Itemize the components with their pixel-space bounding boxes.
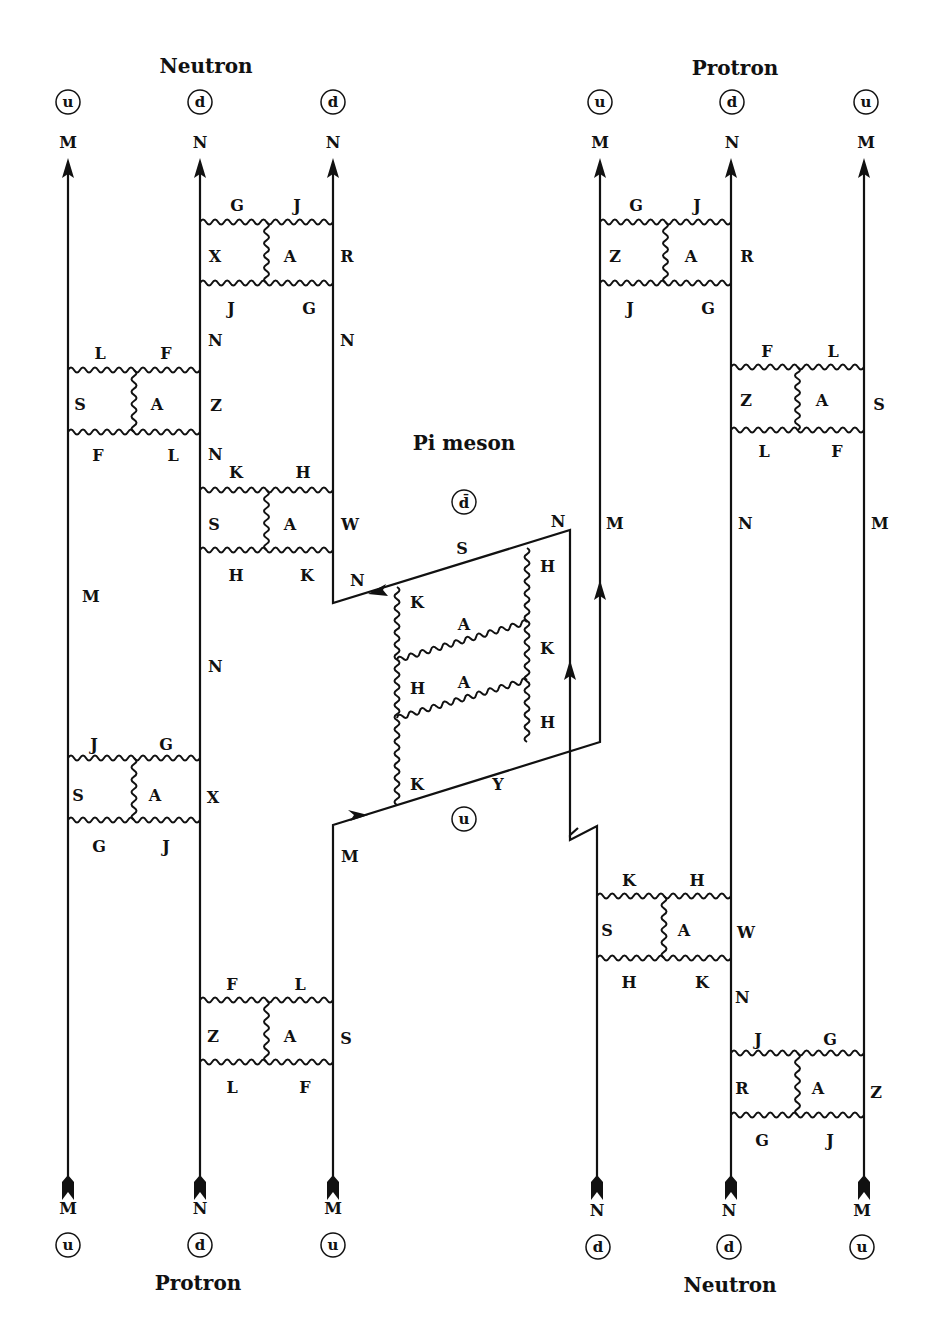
box-label: A <box>150 395 164 414</box>
end-label: N <box>722 1201 737 1220</box>
box-label: F <box>226 975 238 994</box>
line-label: N <box>208 445 223 464</box>
quark-u: u <box>459 810 470 828</box>
box-label: G <box>823 1030 837 1049</box>
box-label: L <box>167 446 178 465</box>
meson-corner-label: N <box>551 512 566 531</box>
bottom-right-quarks: d d u <box>586 1235 874 1259</box>
box-label: J <box>752 1030 762 1049</box>
box-label: A <box>815 391 829 410</box>
glue-label: K <box>410 775 425 794</box>
box-label: J <box>824 1131 834 1150</box>
box-label: L <box>294 975 305 994</box>
box-label: Z <box>870 1083 882 1102</box>
box-label: A <box>684 247 698 266</box>
box-label: L <box>827 342 838 361</box>
box-label: L <box>226 1078 237 1097</box>
quark-d: d <box>724 1238 735 1256</box>
box-right-mid: K H S A W H K <box>601 871 756 992</box>
gluon-lines <box>68 220 864 1118</box>
box-label: X <box>209 247 222 266</box>
box-label: S <box>873 395 885 414</box>
title-proton-top: Protron <box>692 56 779 80</box>
box-label: G <box>701 299 715 318</box>
quark-u: u <box>861 93 872 111</box>
quark-d: d <box>195 1236 206 1254</box>
title-pi-meson: Pi meson <box>413 431 516 455</box>
box-label: G <box>755 1131 769 1150</box>
box-label: H <box>689 871 704 890</box>
quark-u: u <box>595 93 606 111</box>
box-label: L <box>758 442 769 461</box>
line-label: N <box>350 571 365 590</box>
line-label: N <box>208 331 223 350</box>
glue-label: A <box>457 615 471 634</box>
line-label: M <box>871 514 889 533</box>
antiquark-d: d̄ <box>459 493 470 512</box>
quark-d: d <box>593 1238 604 1256</box>
line-label: M <box>82 587 100 606</box>
glue-label: H <box>410 679 425 698</box>
box-label: F <box>160 344 172 363</box>
meson-bottom-line-label: Y <box>491 775 504 794</box>
box-left-mid: K H S A W H K <box>208 463 360 585</box>
line-label: N <box>735 988 750 1007</box>
box-label: Z <box>740 391 752 410</box>
arrow-tails <box>62 1175 870 1200</box>
line-label: M <box>341 847 359 866</box>
box-label: A <box>283 515 297 534</box>
end-label: M <box>324 1199 342 1218</box>
box-label: X <box>207 788 220 807</box>
top-right-quarks: u d u <box>588 90 878 114</box>
end-label: M <box>853 1201 871 1220</box>
box-label: R <box>735 1079 749 1098</box>
meson-top-line-label: S <box>456 539 468 558</box>
box-label: J <box>88 735 98 754</box>
box-label: K <box>622 871 637 890</box>
quark-d: d <box>727 93 738 111</box>
end-label: N <box>590 1201 605 1220</box>
quark-exchange-diagram: Neutron Protron Protron Neutron Pi meson… <box>0 0 947 1335</box>
box-label: A <box>283 247 297 266</box>
box-label: G <box>629 196 643 215</box>
box-label: J <box>624 299 634 318</box>
box-label: A <box>677 921 691 940</box>
bottom-left-quarks: u d u <box>56 1233 345 1257</box>
box-label: K <box>229 463 244 482</box>
quark-d: d <box>195 93 206 111</box>
box-label: K <box>300 566 315 585</box>
glue-label: K <box>410 593 425 612</box>
box-left-bottom: F L Z A S L F <box>207 975 352 1097</box>
end-label: N <box>725 133 740 152</box>
end-label: N <box>193 133 208 152</box>
line-label: N <box>208 657 223 676</box>
box-label: Z <box>210 396 222 415</box>
box-label: A <box>148 786 162 805</box>
title-neutron-bottom: Neutron <box>683 1273 777 1297</box>
glue-label: H <box>540 557 555 576</box>
title-proton-bottom: Protron <box>155 1271 242 1295</box>
end-label: N <box>193 1199 208 1218</box>
line-label: N <box>738 514 753 533</box>
box-left-lower: J G S A X G J <box>72 735 220 856</box>
box-label: H <box>228 566 243 585</box>
quark-u: u <box>328 1236 339 1254</box>
title-neutron-top: Neutron <box>159 54 253 78</box>
glue-label: K <box>540 639 555 658</box>
end-label: N <box>326 133 341 152</box>
line-label: N <box>340 331 355 350</box>
box-label: A <box>283 1027 297 1046</box>
box-label: R <box>340 247 354 266</box>
quark-u: u <box>857 1238 868 1256</box>
box-label: L <box>94 344 105 363</box>
end-label: M <box>59 1199 77 1218</box>
box-label: R <box>740 247 754 266</box>
box-label: J <box>291 196 301 215</box>
pi-meson: d̄ u S N Y K H K H K H A A <box>410 490 565 831</box>
glue-label: A <box>457 673 471 692</box>
quark-u: u <box>63 1236 74 1254</box>
glue-label: H <box>540 713 555 732</box>
box-label: G <box>302 299 316 318</box>
box-label: S <box>72 786 84 805</box>
box-label: F <box>831 442 843 461</box>
